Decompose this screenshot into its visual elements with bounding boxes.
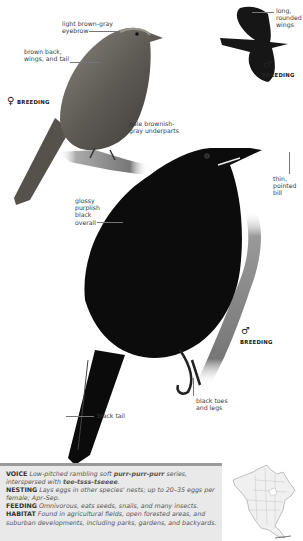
leader-bill (289, 152, 290, 174)
female-breeding-label: BREEDING (17, 99, 50, 105)
feeding-key: FEEDING (6, 502, 37, 509)
leader-back (70, 62, 100, 63)
voice-text-1: Low-pitched rambling soft (29, 470, 113, 477)
flying-male-symbol: ♂ (263, 60, 272, 70)
label-eyebrow: light brown-gray eyebrow (62, 20, 113, 34)
label-toes: black toes and legs (196, 397, 228, 411)
leader-toes (193, 378, 194, 396)
voice-text-3: . (118, 478, 120, 485)
nesting-row: NESTING Lays eggs in other species' nest… (6, 486, 220, 502)
female-symbol: ♀ (7, 96, 14, 106)
voice-call: purr-purr-purr (114, 470, 165, 477)
voice-key: VOICE (6, 470, 27, 477)
male-symbol: ♂ (241, 326, 250, 336)
habitat-text: Found in agricultural fields, open fores… (6, 510, 216, 525)
habitat-key: HABITAT (6, 510, 36, 517)
flying-male-breeding-label: BREEDING (262, 72, 295, 78)
male-breeding-label: BREEDING (240, 339, 273, 345)
info-text: VOICE Low-pitched rambling soft purr-pur… (6, 470, 220, 527)
feeding-text: Omnivorous, eats seeds, snails, and many… (39, 502, 199, 509)
voice-call-2: tee-tsss-tseeee (63, 478, 118, 485)
range-map-icon (225, 460, 303, 541)
label-bill: thin, pointed bill (273, 175, 297, 197)
feeding-row: FEEDING Omnivorous, eats seeds, snails, … (6, 502, 220, 510)
habitat-row: HABITAT Found in agricultural fields, op… (6, 510, 220, 526)
label-underparts: pale brownish- gray underparts (129, 120, 179, 134)
leader-eyebrow (89, 31, 117, 32)
label-back: brown back, wings, and tail (24, 48, 69, 62)
leader-overall (97, 222, 123, 223)
voice-row: VOICE Low-pitched rambling soft purr-pur… (6, 470, 220, 486)
label-wings: long, rounded wings (276, 7, 302, 29)
label-tail: black tail (97, 412, 125, 419)
leader-wings (252, 12, 274, 13)
leader-tail (66, 416, 94, 417)
nesting-key: NESTING (6, 486, 37, 493)
nesting-text: Lays eggs in other species' nests; up to… (6, 486, 215, 501)
